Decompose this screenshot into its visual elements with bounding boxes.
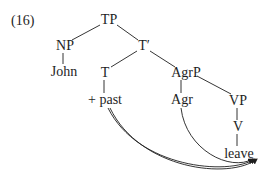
node-john: John — [51, 64, 77, 80]
edge-tp-np — [72, 25, 100, 40]
example-number: (16) — [11, 13, 34, 29]
node-np: NP — [56, 38, 74, 54]
node-vp: VP — [229, 93, 247, 109]
node-v: V — [233, 119, 243, 135]
edge-tp-tbar — [117, 25, 138, 40]
syntax-tree-diagram: (16) TP NP T′ John T AgrP + past Agr VP … — [0, 0, 276, 181]
node-t-bar: T′ — [138, 38, 150, 54]
edge-agrp-vp — [197, 76, 231, 94]
node-agr: Agr — [171, 92, 193, 108]
node-leave: leave — [224, 146, 254, 162]
node-tp: TP — [101, 12, 117, 28]
node-t: T — [101, 65, 110, 81]
node-agrp: AgrP — [171, 65, 201, 81]
edge-tbar-t — [111, 51, 137, 67]
node-past: + past — [88, 92, 122, 108]
